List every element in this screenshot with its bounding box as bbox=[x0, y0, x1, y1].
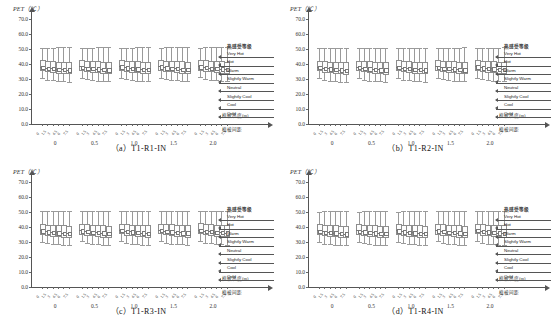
x-tick-mark bbox=[187, 124, 188, 126]
x-tick-mark bbox=[359, 287, 360, 289]
x-tick-mark bbox=[108, 287, 109, 289]
x-tick-mark bbox=[92, 287, 93, 289]
legend-item: Hot bbox=[496, 59, 554, 67]
box-plot bbox=[184, 12, 191, 124]
y-tick-mark bbox=[29, 34, 32, 35]
y-tick-mark bbox=[306, 34, 309, 35]
x-tick-mark bbox=[346, 124, 347, 126]
x-tick-mark bbox=[205, 124, 206, 126]
legend-item-label: Cool bbox=[504, 102, 513, 107]
legend-threshold-line bbox=[496, 57, 551, 58]
y-tick-mark bbox=[29, 257, 32, 258]
x-subtick-label: 0 bbox=[351, 294, 356, 299]
legend-item: Cold bbox=[496, 110, 554, 118]
legend-title: 热感受等级 bbox=[227, 43, 252, 49]
x-tick-mark bbox=[216, 124, 217, 126]
x-tick-mark bbox=[488, 124, 489, 126]
legend-threshold-line bbox=[219, 66, 274, 67]
legend-threshold-line bbox=[219, 91, 274, 92]
box-plot bbox=[382, 12, 389, 124]
y-tick-label: 30.0 bbox=[18, 76, 28, 82]
x-tick-mark bbox=[171, 287, 172, 289]
x-tick-mark bbox=[177, 287, 178, 289]
x-subtick-label: 7.5 bbox=[101, 129, 108, 136]
x-subtick-label: 7.5 bbox=[141, 292, 148, 299]
x-subtick-label: 7.5 bbox=[180, 129, 187, 136]
whisker-cap-min bbox=[146, 245, 151, 246]
x-tick-mark bbox=[330, 287, 331, 289]
x-axis-arrow-icon bbox=[545, 122, 550, 128]
x-tick-mark bbox=[63, 287, 64, 289]
whisker-cap-max bbox=[67, 211, 72, 212]
y-tick-mark bbox=[306, 79, 309, 80]
mean-marker bbox=[68, 232, 72, 236]
legend-threshold-line bbox=[496, 246, 551, 247]
x-tick-mark bbox=[414, 287, 415, 289]
legend-threshold-line bbox=[219, 74, 274, 75]
x-tick-mark bbox=[69, 124, 70, 126]
x-tick-mark bbox=[205, 287, 206, 289]
legend-item: Warm bbox=[496, 230, 554, 238]
x-subtick-label: 6 bbox=[56, 294, 61, 299]
x-tick-mark bbox=[137, 124, 138, 126]
whisker-cap-min bbox=[344, 245, 349, 246]
whisker-cap-max bbox=[185, 211, 190, 212]
x-subtick-label: 7.5 bbox=[62, 292, 69, 299]
legend-threshold-line bbox=[219, 109, 274, 110]
x-tick-mark bbox=[340, 124, 341, 126]
x-tick-mark bbox=[464, 124, 465, 126]
legend-item: Warm bbox=[219, 230, 277, 238]
legend-item-label: Slightly Warm bbox=[504, 76, 531, 81]
x-subtick-label: 0 bbox=[153, 131, 158, 136]
legend-item-label: Cool bbox=[504, 265, 513, 270]
box-plot bbox=[422, 175, 429, 287]
x-tick-mark bbox=[425, 287, 426, 289]
legend-item: Cool bbox=[219, 265, 277, 273]
x-subtick-label: 3 bbox=[362, 131, 367, 136]
y-tick-mark bbox=[306, 94, 309, 95]
legend-item: Slightly Warm bbox=[496, 76, 554, 84]
mean-marker bbox=[345, 232, 349, 236]
legend-item: Hot bbox=[219, 222, 277, 230]
x-tick-mark bbox=[126, 124, 127, 126]
x-tick-mark bbox=[385, 287, 386, 289]
mean-marker bbox=[147, 68, 151, 72]
legend-item: Slightly Cool bbox=[496, 93, 554, 101]
legend-item: Slightly Warm bbox=[496, 239, 554, 247]
x-subtick-label: 0 bbox=[351, 131, 356, 136]
y-tick-label: 50.0 bbox=[18, 46, 28, 52]
x-tick-mark bbox=[364, 287, 365, 289]
figure-sheet: PET（℃）0.010.020.030.040.050.060.070.001.… bbox=[0, 0, 554, 326]
y-tick-mark bbox=[306, 227, 309, 228]
legend-item: Cool bbox=[496, 102, 554, 110]
x-subtick-label: 3 bbox=[164, 294, 169, 299]
box-plot bbox=[422, 12, 429, 124]
legend-threshold-line bbox=[496, 66, 551, 67]
legend-threshold-line bbox=[219, 57, 274, 58]
x-tick-mark bbox=[464, 287, 465, 289]
legend-threshold-line bbox=[219, 246, 274, 247]
y-tick-mark bbox=[306, 49, 309, 50]
x-axis-label-spacing: 植被间距 bbox=[222, 126, 242, 132]
legend-threshold-line bbox=[219, 117, 274, 118]
x-tick-mark bbox=[340, 287, 341, 289]
x-axis bbox=[308, 287, 546, 288]
x-tick-mark bbox=[409, 287, 410, 289]
x-axis-arrow-icon bbox=[268, 285, 273, 291]
whisker-cap-min bbox=[344, 82, 349, 83]
x-subtick-label: 6 bbox=[214, 294, 219, 299]
y-tick-label: 30.0 bbox=[295, 239, 305, 245]
x-subtick-label: 7.5 bbox=[339, 129, 346, 136]
x-tick-mark bbox=[385, 124, 386, 126]
x-tick-mark bbox=[319, 287, 320, 289]
y-tick-mark bbox=[29, 287, 32, 288]
y-axis-arrow-icon bbox=[29, 170, 35, 175]
x-tick-mark bbox=[177, 124, 178, 126]
mean-marker bbox=[107, 232, 111, 236]
y-tick-label: 10.0 bbox=[295, 269, 305, 275]
x-tick-mark bbox=[82, 287, 83, 289]
y-tick-label: 0.0 bbox=[21, 284, 28, 290]
x-tick-mark bbox=[369, 287, 370, 289]
whisker-cap-max bbox=[146, 47, 151, 48]
x-subtick-label: 7.5 bbox=[418, 129, 425, 136]
